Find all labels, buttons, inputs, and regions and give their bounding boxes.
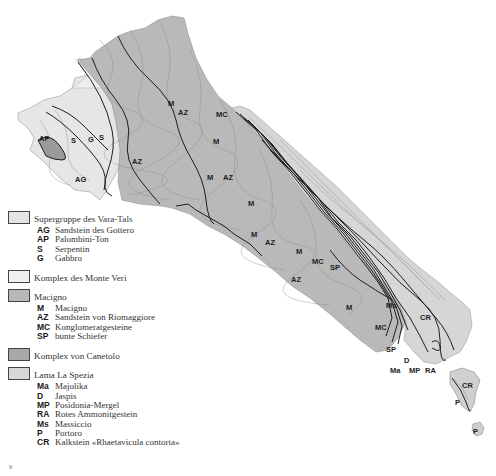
legend-item-desc: Kalkstein «Rhaetavicula contorta» bbox=[55, 438, 179, 447]
map-label: M bbox=[207, 173, 213, 182]
map-label: AZ bbox=[265, 238, 275, 247]
map-label: RA bbox=[425, 366, 436, 375]
legend-group: Lama La Spezia bbox=[8, 366, 238, 380]
legend-group: Komplex von Canetolo bbox=[8, 347, 238, 361]
legend-items: MaMajolikaDJaspisMPPosidonia-MergelRARot… bbox=[37, 382, 238, 447]
map-label: CR bbox=[462, 381, 473, 390]
map-label: S bbox=[99, 133, 104, 142]
legend-group: Macigno bbox=[8, 288, 238, 302]
legend-swatch bbox=[8, 289, 30, 302]
map-label: AZ bbox=[291, 275, 301, 284]
map-label: CR bbox=[420, 313, 431, 322]
map-label: P bbox=[455, 398, 460, 407]
legend-group: Komplex des Monte Veri bbox=[8, 269, 238, 283]
legend-group-label: Lama La Spezia bbox=[34, 370, 94, 380]
map-label: D bbox=[404, 356, 410, 365]
legend-group-label: Komplex des Monte Veri bbox=[34, 273, 126, 283]
map-label: M bbox=[251, 230, 257, 239]
map-label: G bbox=[88, 135, 94, 144]
map-label: MC bbox=[312, 257, 324, 266]
legend-item: CRKalkstein «Rhaetavicula contorta» bbox=[37, 438, 238, 447]
legend-swatch bbox=[8, 348, 30, 361]
map-label: Ma bbox=[390, 366, 401, 375]
legend-swatch bbox=[8, 270, 30, 283]
legend-item-code: G bbox=[37, 254, 55, 263]
map-label: AZ bbox=[223, 173, 233, 182]
legend-items: AGSandstein des GotteroAPPalombini-TonSS… bbox=[37, 226, 238, 263]
map-label: S bbox=[71, 136, 76, 145]
legend-item-desc: Gabbro bbox=[55, 254, 82, 263]
map-label: Ms bbox=[386, 301, 396, 310]
map-label: MC bbox=[375, 323, 387, 332]
legend-group-label: Komplex von Canetolo bbox=[34, 351, 120, 361]
map-label: M bbox=[248, 199, 254, 208]
legend-group-label: Macigno bbox=[34, 292, 67, 302]
map-label: M bbox=[213, 137, 219, 146]
page-number: 9 bbox=[9, 464, 12, 470]
map-label: SP bbox=[330, 263, 340, 272]
map-label: MP bbox=[409, 366, 420, 375]
legend-items: MMacignoAZSandstein von RiomaggioreMCKon… bbox=[37, 304, 238, 341]
map-label: M bbox=[296, 247, 302, 256]
legend-swatch bbox=[8, 367, 30, 380]
map-label: MC bbox=[216, 110, 228, 119]
legend-item: GGabbro bbox=[37, 254, 238, 263]
map-label: P bbox=[473, 427, 478, 436]
legend-item: SPbunte Schiefer bbox=[37, 332, 238, 341]
legend-item-desc: bunte Schiefer bbox=[55, 332, 107, 341]
legend-item-code: CR bbox=[37, 438, 55, 447]
map-label: M bbox=[346, 303, 352, 312]
legend-item-code: SP bbox=[37, 332, 55, 341]
map-label: AG bbox=[75, 175, 86, 184]
map-label: AZ bbox=[132, 157, 142, 166]
legend: Supergruppe des Vara-TalsAGSandstein des… bbox=[8, 210, 238, 453]
map-label: AZ bbox=[178, 108, 188, 117]
map-label: SP bbox=[386, 345, 396, 354]
legend-swatch bbox=[8, 211, 30, 224]
legend-group: Supergruppe des Vara-Tals bbox=[8, 210, 238, 224]
map-label: AP bbox=[39, 134, 49, 143]
legend-group-label: Supergruppe des Vara-Tals bbox=[34, 214, 133, 224]
map-label: M bbox=[168, 99, 174, 108]
